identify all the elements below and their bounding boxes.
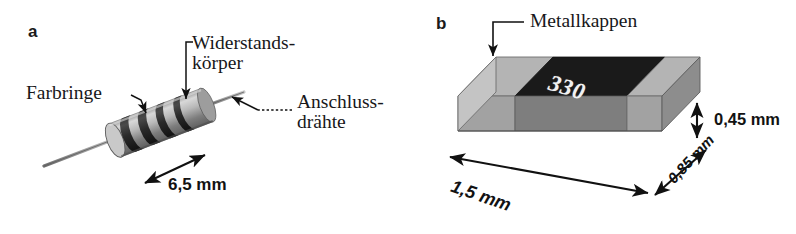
chip-cap-right-front	[627, 96, 662, 131]
dimension-label-length-a: 6,5 mm	[168, 175, 227, 195]
panel-label-b: b	[436, 14, 446, 34]
dimension-label-height-b: 0,45 mm	[714, 110, 780, 129]
resistor-body	[101, 86, 219, 160]
label-widerstandskoerper: Widerstands- körper	[192, 33, 295, 74]
label-metallkappen: Metallkappen	[530, 11, 637, 31]
leader-metallkappen	[493, 22, 524, 56]
label-farbringe: Farbringe	[26, 83, 102, 103]
panel-label-a: a	[28, 22, 37, 42]
leader-anschlussdraehte	[232, 97, 292, 110]
label-anschlussdraehte: Anschluss- drähte	[297, 92, 384, 133]
figure-canvas	[0, 0, 796, 234]
panel-b-illustration	[450, 22, 706, 195]
